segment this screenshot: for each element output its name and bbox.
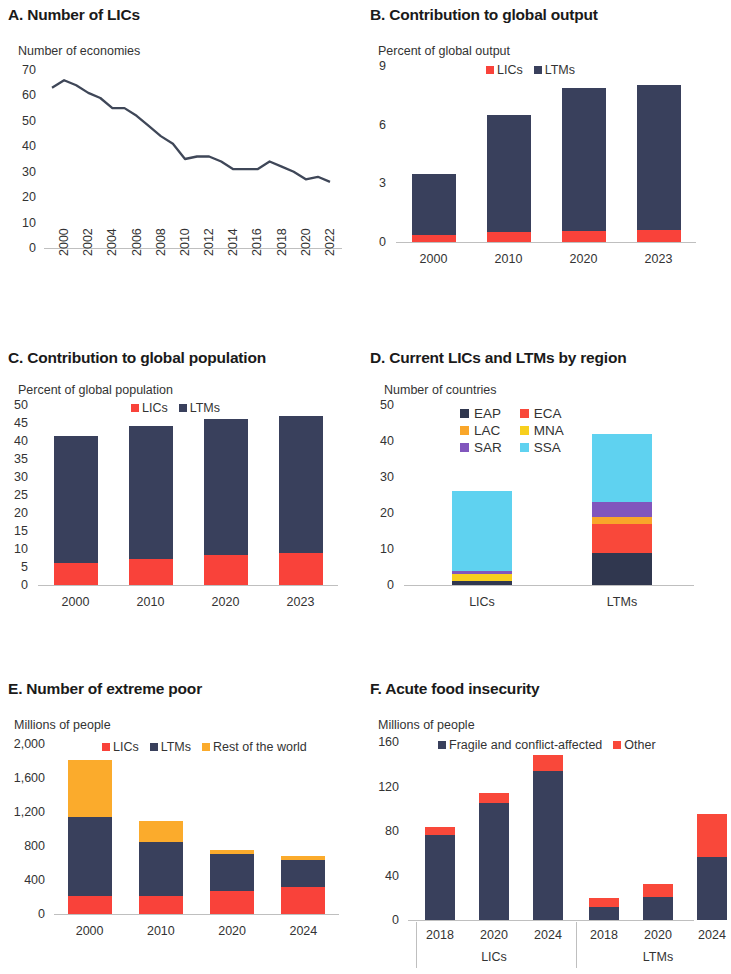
x-axis-group-label: LICs: [454, 950, 534, 964]
x-axis-tick-label: 2000: [394, 252, 474, 266]
y-axis-tick-label: 0: [387, 578, 394, 592]
bar-segment: [139, 842, 183, 896]
y-axis-tick-label: 50: [14, 398, 28, 412]
panel-a-axis-label: Number of economies: [18, 44, 140, 58]
y-axis-tick-label: 30: [22, 165, 36, 179]
y-axis-tick-label: 0: [38, 907, 45, 921]
y-axis-tick-label: 35: [14, 452, 28, 466]
panel-c: C. Contribution to global population Per…: [6, 347, 350, 667]
bar-segment: [68, 896, 112, 914]
x-axis-tick-label: 2020: [186, 595, 266, 609]
bar-stack: [54, 405, 98, 585]
bar-segment: [281, 856, 325, 859]
x-axis-tick-label: 2020: [299, 228, 313, 256]
bar-segment: [479, 803, 509, 920]
bar-segment: [533, 771, 563, 920]
panel-e-plot-area: 04008001,2001,6002,0002000201020202024: [54, 744, 339, 914]
y-axis-tick-label: 20: [14, 506, 28, 520]
panel-d-title: D. Current LICs and LTMs by region: [370, 349, 626, 367]
bar-stack: [479, 742, 509, 920]
bar-segment: [592, 434, 652, 502]
panel-b-axis-label: Percent of global output: [378, 44, 510, 58]
x-axis-tick-label: 2020: [464, 928, 524, 942]
y-axis-tick-label: 800: [24, 839, 45, 853]
bar-segment: [487, 115, 531, 232]
panel-f: F. Acute food insecurity Millions of peo…: [368, 678, 699, 974]
bar-segment: [697, 857, 727, 920]
bar-segment: [279, 416, 323, 554]
y-axis-tick-label: 25: [14, 488, 28, 502]
bar-stack: [281, 744, 325, 914]
x-axis-tick-label: 2018: [275, 228, 289, 256]
bar-segment: [210, 891, 254, 914]
bar-stack: [637, 66, 681, 242]
bar-segment: [54, 563, 98, 585]
panel-a-title: A. Number of LICs: [8, 6, 140, 24]
bar-segment: [592, 553, 652, 585]
panel-e-title: E. Number of extreme poor: [8, 680, 202, 698]
x-axis-tick-label: 2024: [263, 924, 343, 938]
panel-a: A. Number of LICs Number of economies 01…: [6, 4, 350, 324]
x-axis-tick-label: 2023: [261, 595, 341, 609]
panel-e-axis-label: Millions of people: [14, 718, 111, 732]
y-axis-tick-label: 45: [14, 416, 28, 430]
bar-segment: [129, 426, 173, 559]
x-axis-tick-label: 2002: [81, 228, 95, 256]
bar-stack: [412, 66, 456, 242]
bar-segment: [452, 574, 512, 581]
bar-segment: [412, 235, 456, 242]
y-axis-tick-label: 9: [379, 59, 386, 73]
x-axis-tick-label: 2012: [202, 228, 216, 256]
x-axis-tick-label: 2010: [178, 228, 192, 256]
panel-f-plot-area: 04080120160201820202024201820202024LICsL…: [408, 742, 694, 920]
panel-f-title: F. Acute food insecurity: [370, 680, 539, 698]
y-axis-tick-label: 40: [385, 869, 399, 883]
bar-segment: [589, 907, 619, 920]
bar-segment: [533, 755, 563, 771]
y-axis-tick-label: 30: [14, 470, 28, 484]
bar-stack: [562, 66, 606, 242]
bar-stack: [279, 405, 323, 585]
bar-segment: [487, 232, 531, 242]
x-axis-tick-label: 2018: [410, 928, 470, 942]
panel-d-axis-label: Number of countries: [384, 383, 497, 397]
bar-segment: [643, 897, 673, 920]
x-axis-tick-label: 2010: [121, 924, 201, 938]
x-axis-tick-label: 2020: [192, 924, 272, 938]
bar-segment: [452, 491, 512, 570]
y-axis-tick-label: 1,200: [14, 805, 45, 819]
panel-e: E. Number of extreme poor Millions of pe…: [6, 678, 350, 974]
bar-segment: [139, 896, 183, 914]
x-axis-tick-label: 2018: [574, 928, 634, 942]
y-axis-tick-label: 2,000: [14, 737, 45, 751]
x-axis-tick-label: 2000: [50, 924, 130, 938]
y-axis-tick-label: 80: [385, 824, 399, 838]
y-axis-tick-label: 50: [22, 114, 36, 128]
bar-stack: [487, 66, 531, 242]
y-axis-tick-label: 10: [22, 216, 36, 230]
panel-c-title: C. Contribution to global population: [8, 349, 266, 367]
y-axis-tick-label: 40: [380, 434, 394, 448]
bar-segment: [412, 174, 456, 236]
bar-segment: [592, 517, 652, 524]
panel-b-title: B. Contribution to global output: [370, 6, 598, 24]
bar-segment: [281, 860, 325, 888]
bar-stack: [589, 742, 619, 920]
panel-c-axis-label: Percent of global population: [18, 383, 173, 397]
bar-segment: [562, 231, 606, 242]
x-axis-line: [404, 585, 694, 586]
bar-stack: [139, 744, 183, 914]
y-axis-tick-label: 50: [380, 398, 394, 412]
bar-segment: [68, 760, 112, 817]
bar-segment: [637, 85, 681, 231]
x-axis-line: [408, 920, 694, 921]
bar-segment: [637, 230, 681, 242]
x-axis-tick-label: 2008: [154, 228, 168, 256]
y-axis-tick-label: 10: [380, 542, 394, 556]
bar-segment: [425, 827, 455, 836]
bar-segment: [204, 555, 248, 585]
x-axis-tick-label: LICs: [442, 595, 522, 609]
x-axis-group-label: LTMs: [618, 950, 698, 964]
x-axis-tick-label: 2023: [619, 252, 699, 266]
bar-segment: [452, 571, 512, 575]
